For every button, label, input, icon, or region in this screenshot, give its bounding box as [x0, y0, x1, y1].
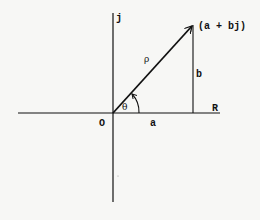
magnitude-label: ρ: [144, 54, 149, 64]
real-part-label: a: [150, 118, 156, 129]
paper-speck: [117, 175, 118, 176]
complex-plane-diagram: j R O (a + bj) ρ θ b a: [0, 0, 260, 220]
origin-label: O: [99, 118, 105, 129]
imaginary-part-label: b: [196, 69, 202, 80]
angle-label: θ: [122, 102, 127, 112]
vector-rho: [113, 26, 192, 113]
point-label: (a + bj): [198, 21, 246, 32]
angle-arc: [132, 94, 139, 113]
imaginary-axis-label: j: [116, 13, 122, 24]
real-axis-label: R: [212, 103, 218, 114]
